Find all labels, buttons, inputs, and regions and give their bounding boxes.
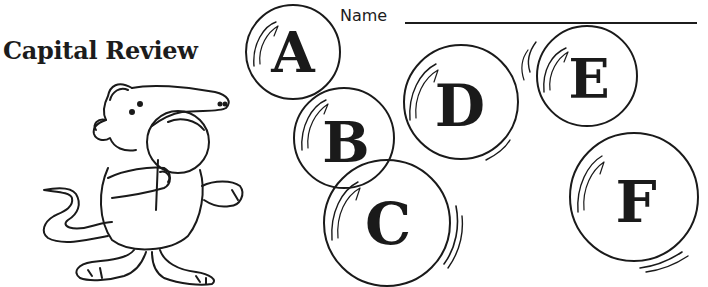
- bubble-b-letter: B: [322, 109, 369, 175]
- bubble-e-letter: E: [568, 47, 609, 111]
- bubble-a-letter: A: [270, 19, 316, 85]
- bubble-f-letter: F: [615, 168, 656, 236]
- worksheet-artwork: A B C D E F: [0, 0, 708, 287]
- anteater-illustration: [44, 84, 243, 284]
- bubble-c-letter: C: [365, 190, 411, 258]
- bubble-d-letter: D: [435, 72, 485, 140]
